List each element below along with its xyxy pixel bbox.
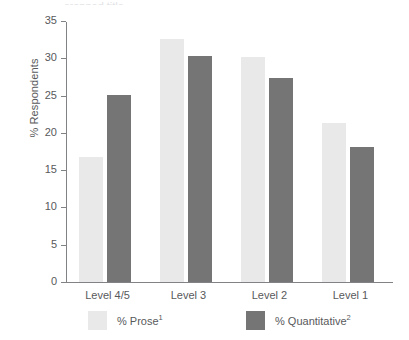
y-axis-tick-label: 5 (51, 238, 57, 250)
y-axis-tick: 35 (61, 21, 66, 22)
legend-swatch-quantitative (246, 311, 265, 330)
y-axis-tick: 20 (61, 133, 66, 134)
x-axis-category-label: Level 4/5 (67, 289, 148, 301)
y-axis-tick: 15 (61, 170, 66, 171)
bar-chart: cropped title % Respondents 051015202530… (0, 0, 409, 340)
bar-prose (160, 39, 184, 282)
legend-label-quantitative-text: % Quantitative (275, 315, 347, 327)
x-axis-category-label: Level 3 (148, 289, 229, 301)
y-axis-tick-label: 10 (45, 200, 57, 212)
legend-item-quantitative: % Quantitative2 (246, 311, 351, 330)
legend-label-prose-footnote: 1 (159, 313, 163, 322)
legend-item-prose: % Prose1 (88, 311, 163, 330)
bar-quantitative (350, 147, 374, 282)
y-axis-tick-label: 0 (51, 275, 57, 287)
y-axis-tick-label: 20 (45, 126, 57, 138)
x-axis-category-label: Level 1 (310, 289, 391, 301)
plot-area: 05101520253035 Level 4/5Level 3Level 2Le… (66, 14, 393, 283)
y-axis-tick: 30 (61, 58, 66, 59)
legend-label-quantitative-footnote: 2 (347, 313, 351, 322)
bar-quantitative (188, 56, 212, 282)
bar-prose (79, 157, 103, 282)
y-axis-tick: 0 (61, 282, 66, 283)
chart-legend: % Prose1 % Quantitative2 (88, 311, 398, 333)
legend-label-quantitative: % Quantitative2 (275, 315, 351, 327)
bar-group: Level 3 (148, 21, 229, 282)
bar-group: Level 4/5 (67, 21, 148, 282)
bar-series-container: Level 4/5Level 3Level 2Level 1 (67, 21, 393, 282)
y-axis-tick-label: 35 (45, 14, 57, 26)
bar-group: Level 2 (229, 21, 310, 282)
x-axis-category-label: Level 2 (229, 289, 310, 301)
y-axis-tick-label: 15 (45, 163, 57, 175)
x-axis-line (66, 282, 393, 283)
y-axis-tick: 10 (61, 207, 66, 208)
bar-quantitative (107, 95, 131, 282)
bar-quantitative (269, 78, 293, 282)
y-axis-tick: 25 (61, 96, 66, 97)
bar-prose (241, 57, 265, 282)
y-axis-title: % Respondents (28, 18, 40, 178)
legend-label-prose-text: % Prose (117, 315, 159, 327)
cropped-title-remnant: cropped title (64, 0, 344, 5)
bar-prose (322, 123, 346, 282)
y-axis-tick: 5 (61, 245, 66, 246)
bar-group: Level 1 (310, 21, 391, 282)
legend-label-prose: % Prose1 (117, 315, 163, 327)
y-axis-tick-label: 30 (45, 51, 57, 63)
y-axis-tick-label: 25 (45, 89, 57, 101)
legend-swatch-prose (88, 311, 107, 330)
